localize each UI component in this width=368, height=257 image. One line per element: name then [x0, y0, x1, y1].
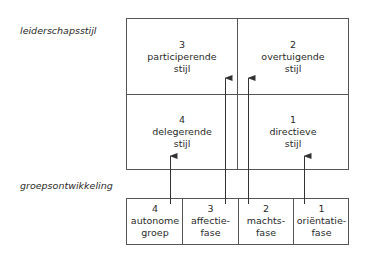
phase-number: 3 [183, 203, 238, 215]
style-number: 2 [238, 39, 348, 51]
style-name: directieve [238, 126, 348, 138]
style-delegerende: 4 delegerende stijl [127, 114, 237, 150]
style-suffix: stijl [127, 63, 237, 75]
phase-name: autonome [127, 215, 183, 227]
phase-number: 1 [294, 203, 349, 215]
style-suffix: stijl [238, 63, 348, 75]
phase-affectie: 3 affectie- fase [183, 203, 238, 239]
phase-suffix: fase [183, 227, 238, 239]
phase-autonome-groep: 4 autonome groep [127, 203, 183, 239]
phase-suffix: groep [127, 227, 183, 239]
style-number: 4 [127, 114, 237, 126]
phase-name: machts- [239, 215, 293, 227]
style-suffix: stijl [238, 138, 348, 150]
phase-name: oriëntatie- [294, 215, 349, 227]
style-number: 3 [127, 39, 237, 51]
phase-suffix: fase [294, 227, 349, 239]
phase-orientatie: 1 oriëntatie- fase [294, 203, 349, 239]
style-directieve: 1 directieve stijl [238, 114, 348, 150]
style-name: delegerende [127, 126, 237, 138]
phase-number: 2 [239, 203, 293, 215]
style-name: participerende [127, 51, 237, 63]
phase-machts: 2 machts- fase [239, 203, 293, 239]
phase-suffix: fase [239, 227, 293, 239]
style-name: overtuigende [238, 51, 348, 63]
style-suffix: stijl [127, 138, 237, 150]
phase-number: 4 [127, 203, 183, 215]
style-number: 1 [238, 114, 348, 126]
style-overtuigende: 2 overtuigende stijl [238, 39, 348, 75]
phase-name: affectie- [183, 215, 238, 227]
style-participerende: 3 participerende stijl [127, 39, 237, 75]
